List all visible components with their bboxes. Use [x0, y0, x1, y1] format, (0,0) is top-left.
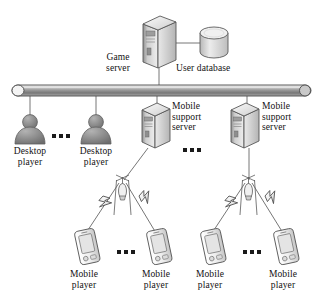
bolt-icon [137, 188, 154, 205]
desktop-player-1-label: Desktop player [4, 146, 56, 167]
network-diagram: Game server User database Desktop player… [0, 0, 323, 307]
mobile-phone-icon [146, 228, 173, 265]
server-tower-icon [142, 103, 170, 148]
mobile-phone-icon [74, 228, 101, 265]
mobile-player-3-label: Mobile player [184, 269, 236, 290]
desktop-player-2-label: Desktop player [70, 146, 122, 167]
bolt-icon [263, 188, 280, 205]
mobile-support-server-1-label: Mobile support server [172, 101, 226, 133]
database-cylinder-icon [200, 27, 228, 58]
bolt-icon [222, 194, 239, 211]
antenna-tower-icon [240, 175, 257, 215]
person-icon [15, 115, 45, 144]
person-icon [81, 115, 111, 144]
server-tower-icon [231, 103, 259, 148]
link-mss1-antenna1 [124, 148, 148, 180]
mobile-players-right-ellipsis [243, 250, 261, 254]
game-server-label: Game server [95, 52, 141, 73]
desktop-players-ellipsis [52, 134, 70, 138]
mobile-phone-icon [200, 228, 227, 265]
mobile-phone-icon [273, 228, 300, 265]
link-antenna1-mobile1 [86, 183, 119, 233]
mobile-player-1-label: Mobile player [58, 269, 110, 290]
mobile-player-4-label: Mobile player [257, 269, 309, 290]
user-database-label: User database [176, 63, 266, 74]
game-server-icon [143, 16, 176, 68]
mobile-support-servers-ellipsis [183, 148, 201, 152]
antenna-tower-icon [114, 175, 131, 215]
mobile-players-left-ellipsis [117, 250, 135, 254]
link-antenna2-mobile3 [212, 183, 245, 233]
network-bus-icon [12, 85, 311, 96]
bolt-icon [96, 194, 113, 211]
mobile-player-2-label: Mobile player [130, 269, 182, 290]
mobile-support-server-2-label: Mobile support server [262, 101, 316, 133]
